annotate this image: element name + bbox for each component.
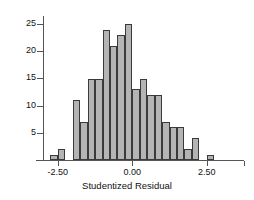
histogram-bar xyxy=(147,95,154,160)
histogram-bar xyxy=(110,46,117,160)
histogram-bar xyxy=(192,138,199,160)
histogram-bar xyxy=(88,79,95,161)
plot-area xyxy=(0,18,254,160)
histogram-bar xyxy=(125,24,132,160)
x-tick-mark xyxy=(207,161,208,166)
x-tick-mark xyxy=(244,161,245,166)
histogram-bar xyxy=(177,127,184,160)
x-tick-mark xyxy=(132,161,133,166)
histogram-bar xyxy=(95,79,102,161)
x-tick-mark xyxy=(58,161,59,166)
x-axis-title: Studentized Residual xyxy=(0,180,254,191)
histogram-bar xyxy=(117,35,124,160)
histogram-bar xyxy=(170,127,177,160)
histogram-bar xyxy=(162,122,169,160)
histogram-figure: 510152025 -2.500.002.50 Studentized Resi… xyxy=(0,0,254,200)
histogram-bar xyxy=(103,30,110,160)
x-axis-line xyxy=(36,160,244,161)
histogram-bar xyxy=(207,155,214,160)
x-tick-label: 2.50 xyxy=(187,167,227,177)
histogram-bar xyxy=(132,89,139,160)
x-tick-label: 0.00 xyxy=(112,167,152,177)
histogram-bar xyxy=(155,95,162,160)
histogram-bar xyxy=(80,122,87,160)
histogram-bar xyxy=(184,149,191,160)
histogram-bar xyxy=(140,79,147,161)
histogram-bar xyxy=(73,100,80,160)
x-tick-label: -2.50 xyxy=(38,167,78,177)
histogram-bar xyxy=(58,149,65,160)
histogram-bar xyxy=(50,155,57,160)
